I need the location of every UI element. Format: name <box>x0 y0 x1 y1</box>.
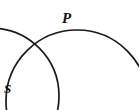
geometry-figure: P S <box>0 0 139 110</box>
point-label-s: S <box>4 82 11 95</box>
point-label-p: P <box>62 11 71 26</box>
